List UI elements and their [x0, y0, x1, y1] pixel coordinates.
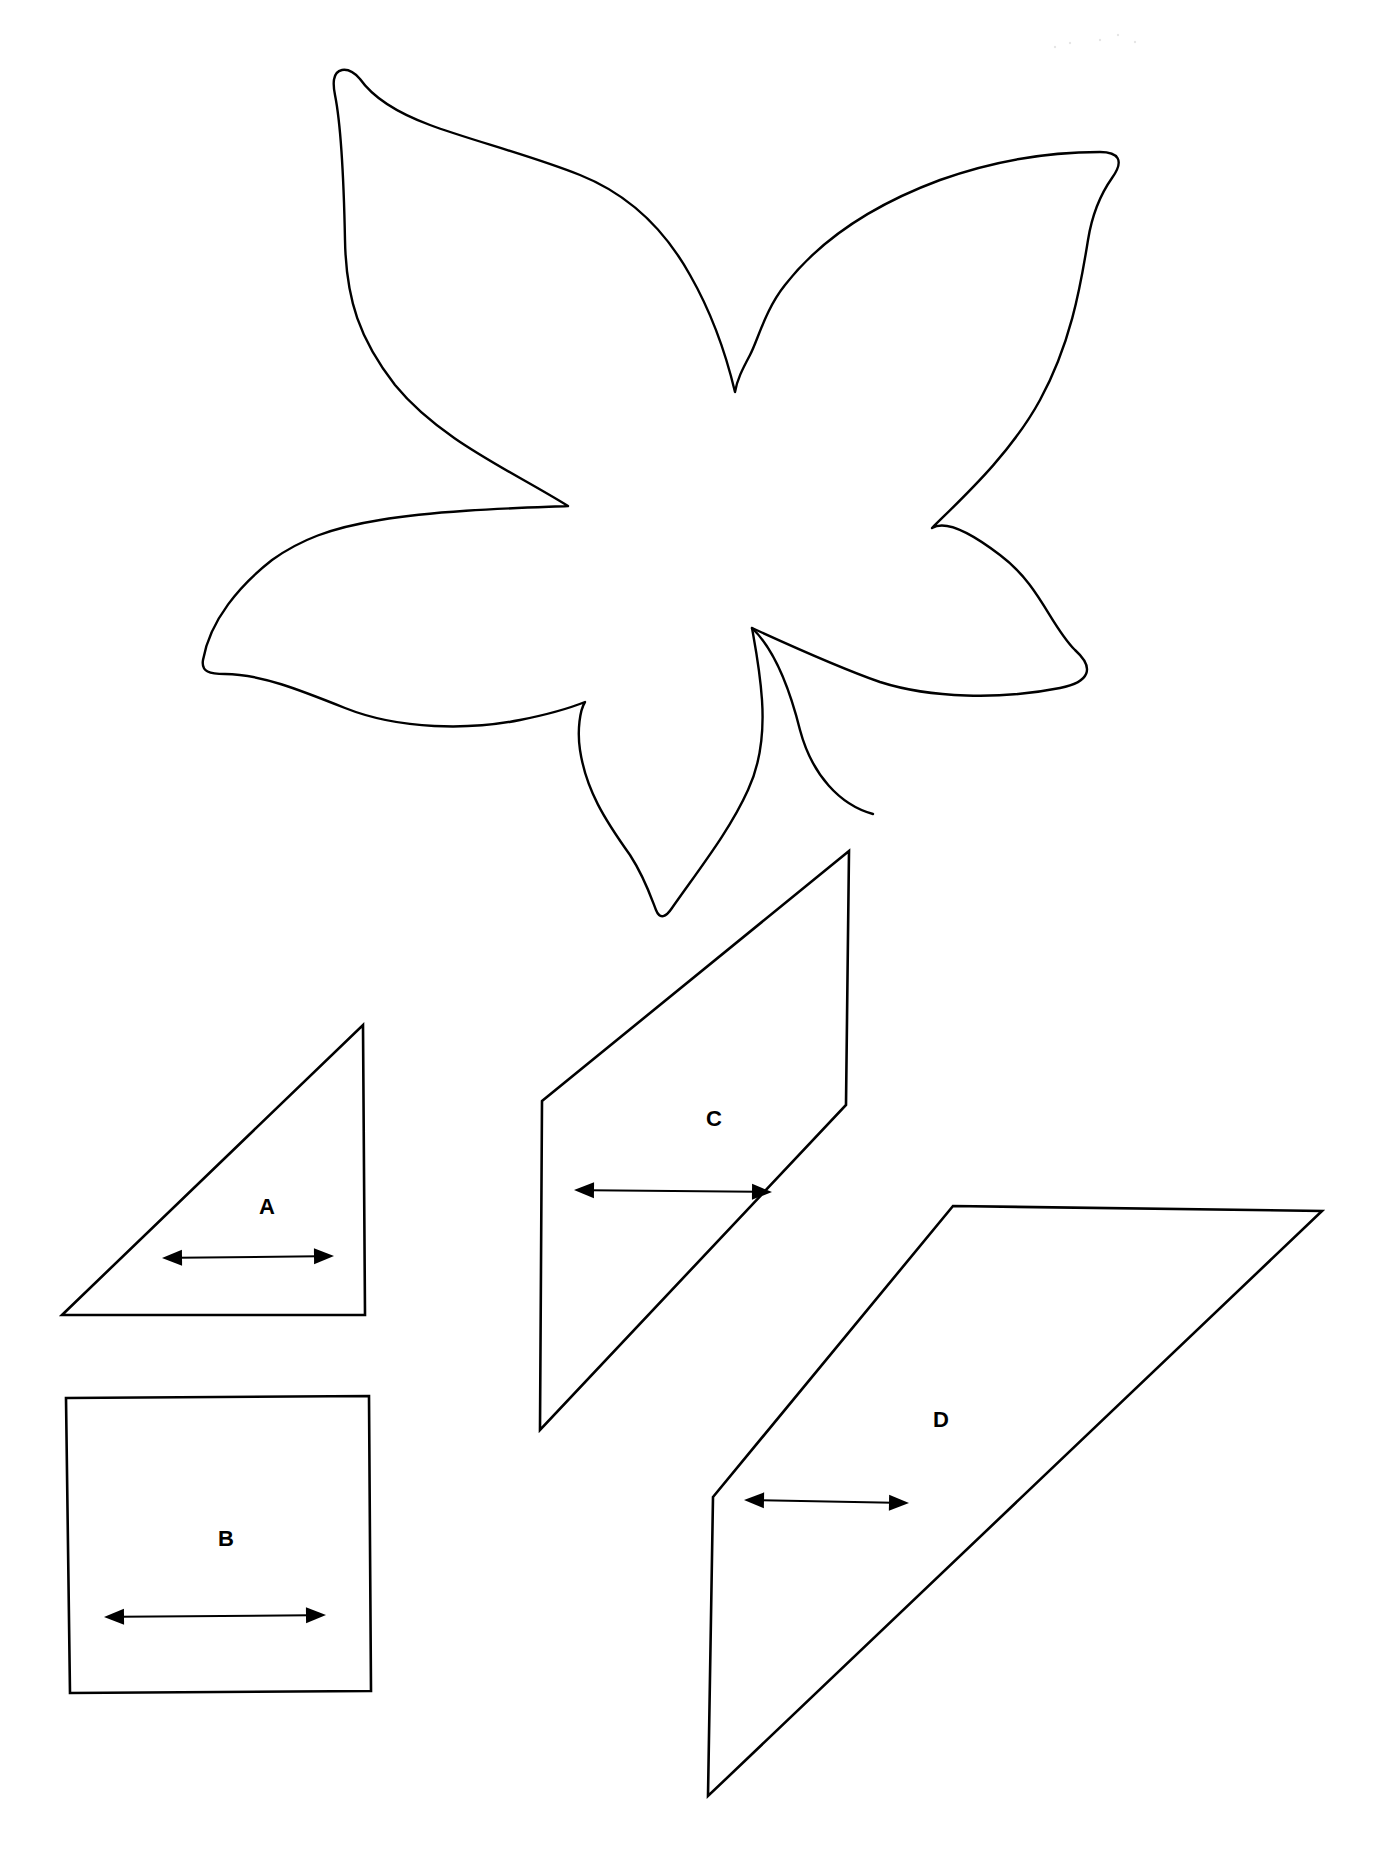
- template-c-label: C: [706, 1106, 722, 1131]
- template-b-label: B: [218, 1526, 234, 1551]
- template-d-label: D: [933, 1407, 949, 1432]
- page-background: [0, 0, 1377, 1852]
- template-a-label: A: [259, 1194, 275, 1219]
- pattern-sheet: A B C D: [0, 0, 1377, 1852]
